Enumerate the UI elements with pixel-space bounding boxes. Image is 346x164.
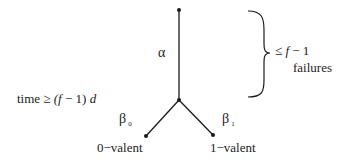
beta0-label: β0 <box>119 112 132 128</box>
time-bound-annotation: time ≥ (f − 1) d <box>17 92 96 105</box>
failures-caption: failures <box>293 61 332 74</box>
tree-edges <box>0 0 346 164</box>
junction-node <box>177 98 181 102</box>
leaf-label-1-valent: 1−valent <box>210 141 256 154</box>
beta1-edge <box>179 100 213 135</box>
leaf-label-0-valent: 0−valent <box>97 141 143 154</box>
curly-brace-icon <box>248 11 270 97</box>
alpha-label: α <box>158 46 165 60</box>
root-node <box>177 8 181 12</box>
leaf-node-0-valent <box>144 134 148 138</box>
beta0-edge <box>146 100 179 136</box>
beta1-label: β1 <box>222 112 235 128</box>
execution-tree-diagram: α β0 β1 0−valent 1−valent time ≥ (f − 1)… <box>0 0 346 164</box>
failure-bound-annotation: ≤ f − 1 <box>275 44 309 57</box>
leaf-node-1-valent <box>211 133 215 137</box>
